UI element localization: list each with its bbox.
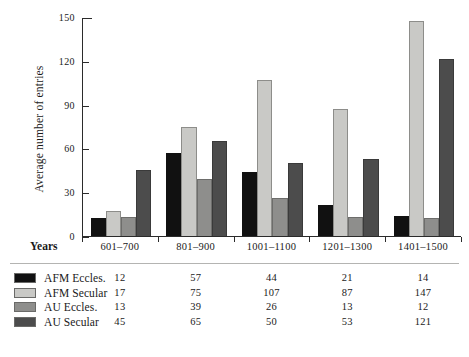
bar-group (83, 18, 159, 236)
legend-value-cell: 21 (324, 271, 370, 286)
x-axis-title: Years (30, 239, 82, 253)
bar[interactable] (348, 217, 363, 236)
bar-chart: Average number of entries 0306090120150 … (0, 0, 469, 258)
y-axis-tick-label: 90 (49, 101, 75, 111)
bar-series-container (83, 18, 461, 236)
bar[interactable] (257, 80, 272, 236)
legend-row[interactable]: AFM Eccles.1257442114 (0, 271, 469, 286)
bar-group (159, 18, 235, 236)
legend-value-cell: 50 (249, 315, 295, 330)
bar[interactable] (197, 179, 212, 236)
x-axis-category-labels: 601–700801–9001001–11001201–13001401–150… (82, 240, 461, 256)
legend-value-cell: 13 (97, 300, 143, 315)
x-axis-category-label: 601–700 (82, 240, 158, 254)
section-divider (10, 263, 459, 264)
legend-value-cell: 12 (97, 271, 143, 286)
y-axis-tick-label: 60 (49, 144, 75, 154)
legend-value-cell: 121 (400, 315, 446, 330)
legend-value-cell: 14 (400, 271, 446, 286)
bar[interactable] (91, 218, 106, 236)
legend-value-cell: 53 (324, 315, 370, 330)
legend-color-swatch (14, 288, 36, 298)
y-axis-tick-label: 30 (49, 188, 75, 198)
legend-row[interactable]: AU Eccles.1339261312 (0, 300, 469, 315)
y-axis-title: Average number of entries (30, 0, 48, 258)
y-axis-tick (83, 237, 89, 238)
legend-row[interactable]: AFM Secular177510787147 (0, 286, 469, 301)
bar-group (235, 18, 311, 236)
legend-color-swatch (14, 273, 36, 283)
plot-area (82, 18, 461, 237)
legend-series-label: AU Secular (44, 315, 99, 330)
bar[interactable] (333, 109, 348, 236)
bar[interactable] (363, 159, 378, 236)
bar[interactable] (106, 211, 121, 236)
bar[interactable] (136, 170, 151, 236)
legend-value-cell: 107 (249, 286, 295, 301)
bar[interactable] (272, 198, 287, 236)
legend-value-cell: 57 (173, 271, 219, 286)
legend-color-swatch (14, 302, 36, 312)
legend-value-cell: 13 (324, 300, 370, 315)
bar[interactable] (242, 172, 257, 236)
legend-value-cell: 75 (173, 286, 219, 301)
legend-value-cell: 26 (249, 300, 295, 315)
bar[interactable] (212, 141, 227, 236)
legend-series-label: AU Eccles. (44, 300, 97, 315)
bar[interactable] (394, 216, 409, 236)
x-axis-category-label: 1001–1100 (234, 240, 310, 254)
bar[interactable] (121, 217, 136, 236)
bar[interactable] (181, 127, 196, 237)
y-axis-tick-labels: 0306090120150 (49, 0, 75, 258)
legend-value-cell: 147 (400, 286, 446, 301)
bar[interactable] (424, 218, 439, 236)
legend-value-cell: 65 (173, 315, 219, 330)
legend-value-cell: 12 (400, 300, 446, 315)
x-axis-category-label: 1401–1500 (385, 240, 461, 254)
x-axis-category-label: 801–900 (158, 240, 234, 254)
legend-value-cell: 45 (97, 315, 143, 330)
bar[interactable] (439, 59, 454, 236)
y-axis-tick-label: 150 (49, 13, 75, 23)
legend-row[interactable]: AU Secular45655053121 (0, 315, 469, 330)
y-axis-tick-label: 120 (49, 57, 75, 67)
legend-value-cell: 17 (97, 286, 143, 301)
bar[interactable] (318, 205, 333, 236)
legend-data-table: AFM Eccles.1257442114AFM Secular17751078… (0, 271, 469, 341)
bar[interactable] (288, 163, 303, 236)
bar[interactable] (409, 21, 424, 236)
legend-value-cell: 39 (173, 300, 219, 315)
x-axis-line (82, 236, 461, 237)
legend-value-cell: 87 (324, 286, 370, 301)
x-axis-tick (461, 237, 462, 242)
bar[interactable] (166, 153, 181, 236)
legend-color-swatch (14, 317, 36, 327)
legend-value-cell: 44 (249, 271, 295, 286)
bar-group (386, 18, 462, 236)
x-axis-category-label: 1201–1300 (309, 240, 385, 254)
bar-group (310, 18, 386, 236)
